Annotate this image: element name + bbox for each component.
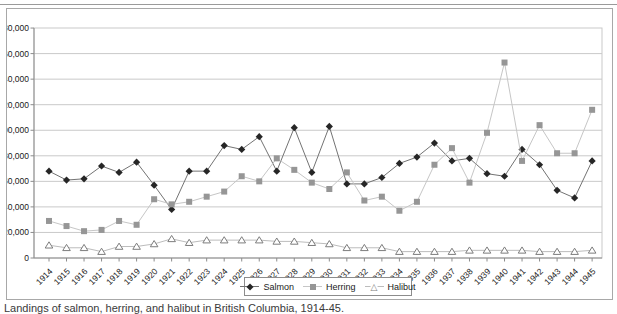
x-axis-label: 1924 (209, 266, 230, 287)
legend-item-halibut[interactable]: △ Halibut (365, 282, 416, 292)
series-herring-marker (151, 196, 157, 202)
halibut-triangle-icon: △ (365, 282, 384, 291)
series-herring-marker (396, 208, 402, 214)
series-salmon-marker (501, 173, 508, 180)
series-herring-marker (274, 155, 280, 161)
x-axis-label: 1918 (104, 266, 125, 287)
series-herring-marker (379, 194, 385, 200)
x-axis-label: 1914 (34, 266, 55, 287)
x-axis-label: 1941 (507, 266, 528, 287)
series-salmon-marker (221, 142, 228, 149)
series-herring-marker (239, 173, 245, 179)
y-axis-label: 160,000 (7, 49, 29, 59)
series-salmon-marker (553, 187, 560, 194)
series-herring-marker (449, 145, 455, 151)
series-herring-marker (309, 180, 315, 186)
herring-square-icon (303, 282, 322, 291)
series-herring-marker (484, 130, 490, 136)
series-herring-marker (502, 60, 508, 66)
chart-frame[interactable]: 020,00040,00060,00080,000100,000120,0001… (6, 8, 613, 300)
y-axis-label: 60,000 (7, 176, 29, 186)
series-herring-marker (361, 198, 367, 204)
legend-box[interactable]: Salmon Herring △ Halibut (244, 277, 412, 296)
caption: Landings of salmon, herring, and halibut… (4, 302, 344, 314)
series-herring-marker (169, 201, 175, 207)
series-salmon-marker (256, 133, 263, 140)
series-herring-marker (326, 186, 332, 192)
x-axis-label: 1917 (87, 266, 108, 287)
y-axis-label: 140,000 (7, 74, 29, 84)
x-axis-label: 1942 (525, 266, 546, 287)
x-axis-label: 1943 (542, 266, 563, 287)
series-herring-marker (116, 218, 122, 224)
x-axis-label: 1938 (454, 266, 475, 287)
x-axis-label: 1945 (577, 266, 598, 287)
legend-item-label: Herring (326, 282, 356, 292)
series-herring-marker (572, 150, 578, 156)
series-salmon-marker (273, 168, 280, 175)
series-halibut-marker (45, 242, 53, 248)
y-axis-label: 40,000 (7, 202, 29, 212)
series-herring-marker (256, 178, 262, 184)
series-herring-line (49, 63, 592, 232)
series-herring-marker (589, 107, 595, 113)
series-salmon-marker (115, 169, 122, 176)
series-salmon-line (49, 126, 592, 209)
x-axis-label: 1940 (489, 266, 510, 287)
y-axis-label: 80,000 (7, 151, 29, 161)
y-axis-label: 180,000 (7, 23, 29, 33)
series-salmon-marker (326, 123, 333, 130)
series-herring-marker (291, 167, 297, 173)
series-herring-marker (414, 199, 420, 205)
y-axis-label: 0 (24, 253, 29, 263)
series-halibut-marker (168, 235, 176, 241)
series-herring-marker (99, 227, 105, 233)
series-herring-marker (64, 223, 70, 229)
window-top-border (0, 4, 617, 5)
x-axis-label: 1919 (122, 266, 143, 287)
series-salmon-marker (98, 162, 105, 169)
x-axis-label: 1937 (437, 266, 458, 287)
series-salmon-marker (589, 157, 596, 164)
series-salmon-marker (238, 146, 245, 153)
legend-item-salmon[interactable]: Salmon (240, 282, 294, 292)
y-axis-label: 20,000 (7, 227, 29, 237)
legend-item-label: Salmon (263, 282, 294, 292)
series-herring-marker (46, 218, 52, 224)
x-axis-label: 1944 (560, 266, 581, 287)
legend-item-label: Halibut (388, 282, 416, 292)
series-herring-marker (81, 228, 87, 234)
salmon-diamond-icon (240, 282, 259, 291)
chart-plot: 020,00040,00060,00080,000100,000120,0001… (7, 9, 610, 297)
x-axis-label: 1939 (472, 266, 493, 287)
x-axis-label: 1916 (69, 266, 90, 287)
series-halibut-line (49, 239, 592, 252)
x-axis-label: 1915 (51, 266, 72, 287)
x-axis-label: 1921 (157, 266, 178, 287)
series-salmon-marker (203, 168, 210, 175)
series-herring-marker (554, 150, 560, 156)
series-herring-marker (537, 122, 543, 128)
series-herring-marker (221, 189, 227, 195)
series-herring-marker (186, 199, 192, 205)
x-axis-label: 1922 (174, 266, 195, 287)
y-axis-label: 120,000 (7, 100, 29, 110)
y-axis-label: 100,000 (7, 125, 29, 135)
series-herring-marker (134, 222, 140, 228)
series-herring-marker (466, 180, 472, 186)
x-axis-label: 1923 (192, 266, 213, 287)
x-axis-label: 1936 (419, 266, 440, 287)
series-salmon-marker (45, 168, 52, 175)
series-herring-marker (344, 169, 350, 175)
series-herring-marker (204, 194, 210, 200)
series-salmon-marker (571, 194, 578, 201)
series-salmon-marker (63, 176, 70, 183)
series-herring-marker (519, 158, 525, 164)
series-herring-marker (431, 162, 437, 168)
x-axis-label: 1920 (139, 266, 160, 287)
series-salmon-marker (186, 168, 193, 175)
legend-item-herring[interactable]: Herring (303, 282, 356, 292)
series-salmon-marker (308, 169, 315, 176)
